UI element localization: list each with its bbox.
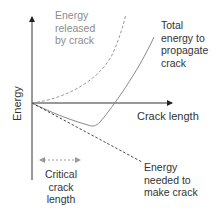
label-line: Energy xyxy=(55,9,95,22)
energy-released-label: Energy released by crack xyxy=(55,9,95,47)
label-line: released xyxy=(55,22,95,35)
label-line: energy to xyxy=(161,32,208,45)
label-line: length xyxy=(41,193,81,206)
label-line: crack xyxy=(41,181,81,194)
energy-needed-curve xyxy=(32,103,142,162)
label-line: Critical xyxy=(41,168,81,181)
total-energy-label: Total energy to propagate crack xyxy=(161,19,208,69)
label-line: Total xyxy=(161,19,208,32)
label-line: by crack xyxy=(55,34,95,47)
label-line: needed to xyxy=(144,174,198,187)
label-line: crack xyxy=(161,57,208,70)
label-line: Energy xyxy=(144,161,198,174)
x-axis-label: Crack length xyxy=(137,110,199,123)
critical-crack-length-label: Critical crack length xyxy=(41,168,81,206)
total-energy-curve xyxy=(32,37,154,126)
label-line: make crack xyxy=(144,186,198,199)
energy-needed-label: Energy needed to make crack xyxy=(144,161,198,199)
y-axis-label: Energy xyxy=(11,86,23,121)
label-line: propagate xyxy=(161,44,208,57)
